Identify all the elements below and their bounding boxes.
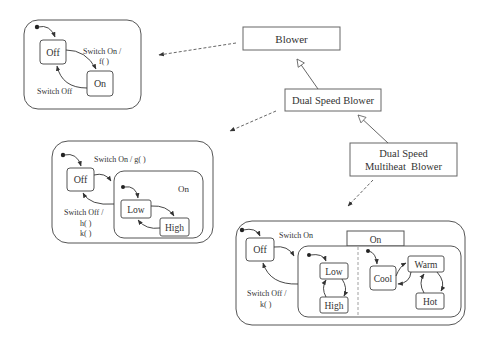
transition-label-action-h: h( ): [80, 219, 92, 228]
composite-state-on-label: On: [178, 184, 189, 194]
composite-state-on-label: On: [370, 235, 382, 245]
class-blower: Blower: [243, 27, 340, 50]
state-machine-dual-speed: Off Switch On / g( ) On Switch Off / h( …: [52, 141, 213, 243]
state-off-label: Off: [253, 244, 267, 255]
statechart-inheritance-diagram: Blower Dual Speed Blower Dual Speed Mult…: [0, 0, 490, 343]
state-hot-label: Hot: [423, 297, 438, 307]
class-label-line2: Multiheat Blower: [365, 161, 442, 172]
transition-label-switch-off: Switch Off: [37, 87, 73, 96]
transition-label-switch-on: Switch On /: [83, 47, 122, 56]
transition-label-switch-on: Switch On / g( ): [94, 155, 146, 164]
state-off-label: Off: [74, 174, 88, 185]
generalization-arrow-dual-to-blower: [297, 59, 318, 89]
state-high-label: High: [325, 301, 344, 311]
dependency-arrow-dual-to-machine2: [230, 111, 276, 131]
transition-label-action-k: k( ): [260, 300, 272, 309]
state-machine-blower: Off On Switch On / f( ) Switch Off: [24, 20, 141, 109]
class-dual-speed-multiheat-blower: Dual Speed Multiheat Blower: [350, 143, 457, 176]
dependency-arrow-blower-to-machine1: [159, 43, 236, 55]
state-low-label: Low: [325, 267, 343, 277]
transition-label-action-k: k( ): [80, 229, 92, 238]
class-dual-speed-blower: Dual Speed Blower: [285, 89, 381, 111]
state-low-label: Low: [127, 205, 145, 215]
transition-label-action-f: f( ): [99, 57, 109, 66]
state-high-label: High: [165, 223, 184, 233]
dependency-arrow-multiheat-to-machine3: [348, 180, 373, 206]
class-label-dual-speed-blower: Dual Speed Blower: [292, 95, 375, 106]
generalization-arrow-multiheat-to-dual: [358, 115, 388, 143]
transition-label-switch-off: Switch Off /: [64, 208, 104, 217]
transition-label-switch-on: Switch On: [279, 231, 313, 240]
state-warm-label: Warm: [415, 260, 439, 270]
transition-label-switch-off: Switch Off /: [247, 289, 287, 298]
state-machine-multiheat: Off Switch On On Switch Off / k( ) Low H…: [236, 221, 465, 325]
class-label-line1: Dual Speed: [379, 148, 428, 159]
state-off-label: Off: [46, 47, 60, 58]
state-cool-label: Cool: [374, 274, 393, 284]
class-label-blower: Blower: [275, 33, 308, 45]
state-on-label: On: [94, 78, 106, 89]
